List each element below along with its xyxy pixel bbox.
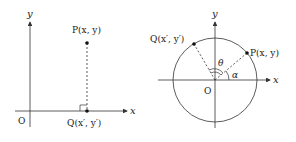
left-point-p-label: P(x, y) [72, 25, 101, 35]
radius-to-q [194, 44, 215, 80]
right-point-q-label: Q(x′, y′) [150, 34, 184, 44]
left-point-q [85, 109, 89, 113]
angle-theta-arc-inner [211, 72, 221, 75]
right-diagram: y x O Q(x′, y′) P(x, y) θ α [150, 8, 279, 128]
angle-alpha-arc [226, 71, 229, 80]
diagram-canvas: y x O P(x, y) Q(x′, y′) y x O Q(x′, y′) … [0, 0, 296, 142]
angle-alpha-label: α [232, 70, 238, 80]
right-point-p [245, 51, 249, 55]
right-origin-label: O [204, 86, 211, 96]
left-x-axis-label: x [130, 105, 136, 116]
right-x-axis-label: x [273, 74, 279, 85]
right-y-axis-label: y [211, 8, 218, 19]
left-point-q-label: Q(x′, y′) [67, 118, 101, 128]
right-point-p-label: P(x, y) [250, 48, 279, 58]
left-point-p [85, 41, 89, 45]
left-origin-label: O [18, 116, 25, 126]
left-y-axis-label: y [26, 8, 33, 19]
right-point-q [192, 42, 196, 46]
angle-theta-label: θ [218, 58, 224, 68]
left-diagram: y x O P(x, y) Q(x′, y′) [15, 8, 136, 128]
